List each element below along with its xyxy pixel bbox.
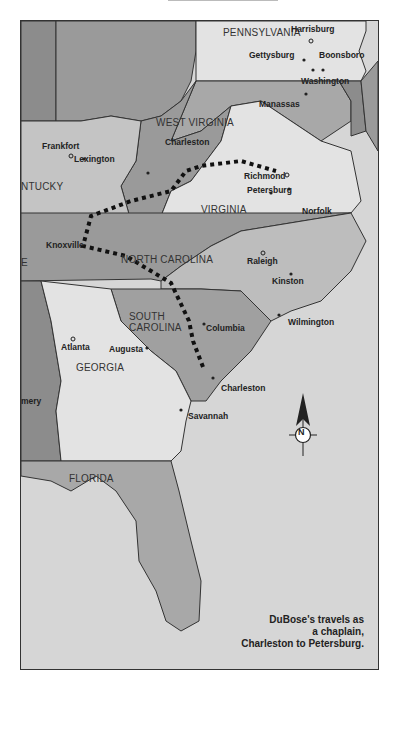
city-knoxville: Knoxville: [46, 240, 84, 250]
state-label-west-virginia: WEST VIRGINIA: [156, 117, 234, 128]
city-richmond: Richmond: [244, 171, 286, 181]
city-lexington: Lexington: [74, 154, 115, 164]
page-header-rule: [168, 0, 278, 1]
compass-label: N: [298, 427, 305, 437]
caption-line-2: a chaplain,: [241, 626, 364, 638]
state-label-florida: FLORIDA: [69, 473, 114, 484]
state-label-kentucky: NTUCKY: [21, 181, 63, 192]
city-wilmington: Wilmington: [288, 317, 334, 327]
city-savannah: Savannah: [188, 411, 228, 421]
city-montgomery-partial: mery: [21, 396, 41, 406]
map-caption: DuBose's travels as a chaplain, Charlest…: [241, 614, 364, 650]
city-augusta: Augusta: [109, 344, 143, 354]
state-label-carolina: CAROLINA: [129, 322, 182, 333]
caption-line-3: Charleston to Petersburg.: [241, 638, 364, 650]
city-atlanta: Atlanta: [61, 342, 90, 352]
state-label-pennsylvania: PENNSYLVANIA: [223, 27, 301, 38]
city-petersburg: Petersburg: [247, 185, 292, 195]
city-manassas: Manassas: [259, 99, 300, 109]
city-boonsboro: Boonsboro: [319, 50, 364, 60]
city-charleston-wv: Charleston: [165, 137, 209, 147]
state-label-georgia: GEORGIA: [76, 362, 124, 373]
caption-line-1: DuBose's travels as: [241, 614, 364, 626]
map-figure: PENNSYLVANIA WEST VIRGINIA NTUCKY VIRGIN…: [20, 20, 379, 670]
city-gettysburg: Gettysburg: [249, 50, 294, 60]
city-raleigh: Raleigh: [247, 256, 278, 266]
city-kinston: Kinston: [272, 276, 304, 286]
city-charleston-sc: Charleston: [221, 383, 265, 393]
city-norfolk: Norfolk: [302, 206, 332, 216]
state-label-partial: E: [21, 257, 28, 268]
city-harrisburg: Harrisburg: [291, 24, 334, 34]
city-washington: Washington: [301, 76, 349, 86]
state-label-north-carolina: NORTH CAROLINA: [121, 254, 213, 265]
state-label-virginia: VIRGINIA: [201, 204, 247, 215]
state-label-south: SOUTH: [129, 311, 165, 322]
city-columbia: Columbia: [206, 323, 245, 333]
city-frankfort: Frankfort: [42, 141, 79, 151]
